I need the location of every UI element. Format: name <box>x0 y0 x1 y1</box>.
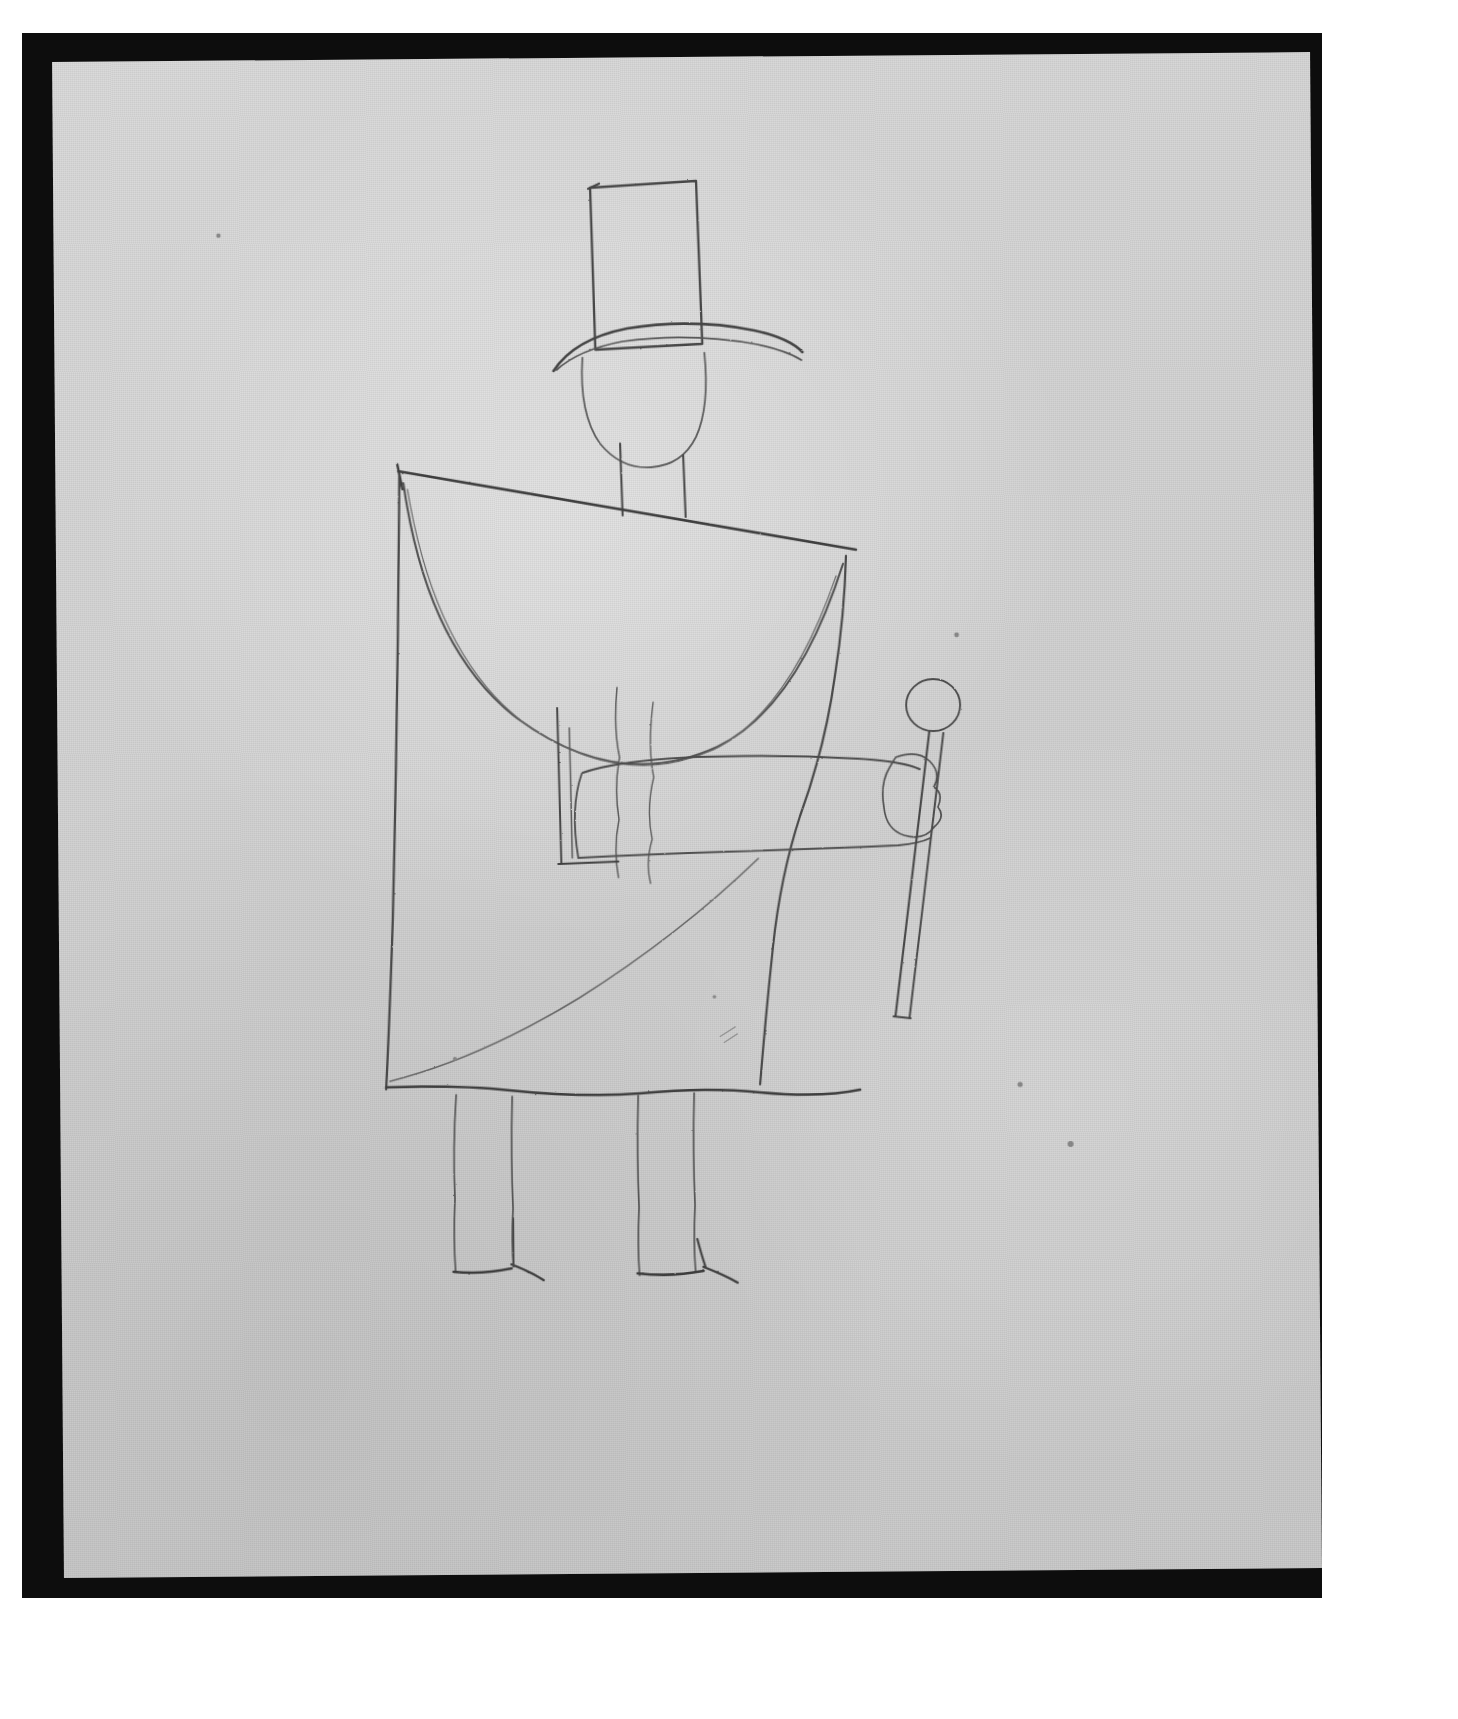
cape-collar-curve <box>403 480 844 768</box>
foot-right <box>637 1239 737 1284</box>
neck <box>620 443 686 518</box>
leg-right <box>637 1093 695 1275</box>
drawing-paper <box>52 52 1322 1578</box>
foot-left <box>453 1218 543 1281</box>
cape-diagonal-fold <box>388 858 760 1081</box>
cape-left-edge <box>381 473 404 1089</box>
head <box>582 353 707 468</box>
stray-mark <box>720 1027 738 1043</box>
leg-left <box>453 1094 513 1270</box>
paper-specks <box>216 227 1073 1154</box>
faint-header-text <box>480 0 700 20</box>
pencil-drawing <box>52 52 1322 1578</box>
photographic-border-frame <box>22 33 1322 1598</box>
cape-shoulder-line <box>397 461 856 554</box>
hem-line <box>386 1083 860 1098</box>
plate-root <box>0 0 1458 1719</box>
cane-knob <box>906 679 960 731</box>
arm <box>557 705 930 864</box>
top-hat-brim <box>553 323 802 371</box>
cape-right-edge <box>756 556 850 1085</box>
